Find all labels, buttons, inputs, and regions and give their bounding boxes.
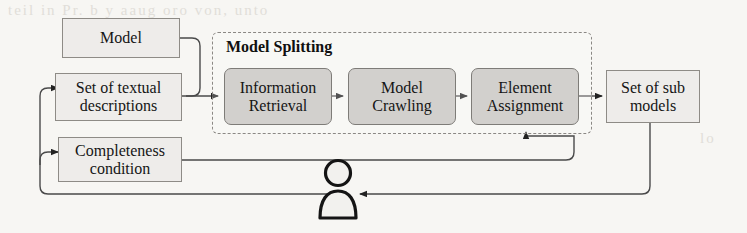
user-actor-icon[interactable]: [312, 158, 364, 220]
node-information-retrieval-label-line2: Retrieval: [249, 97, 308, 115]
node-completeness-label-line1: Completeness: [75, 142, 165, 160]
node-element-assignment-label-line2: Assignment: [487, 97, 563, 115]
wire-model-to-information-retrieval: [180, 38, 200, 96]
node-completeness-condition[interactable]: Completeness condition: [58, 137, 182, 182]
node-model-label: Model: [100, 29, 142, 47]
node-model[interactable]: Model: [62, 18, 180, 58]
node-element-assignment-label-line1: Element: [498, 79, 551, 97]
node-model-crawling[interactable]: Model Crawling: [348, 68, 456, 125]
node-model-crawling-label-line2: Crawling: [372, 97, 432, 115]
wire-completeness-condition-to-element-assignment: [182, 132, 574, 160]
node-information-retrieval-label-line1: Information: [240, 79, 316, 97]
node-set-of-textual-descriptions[interactable]: Set of textual descriptions: [55, 73, 182, 121]
node-sub-models-label-line1: Set of sub: [621, 79, 685, 97]
figure-model-splitting-process: teil in Pr. b y aaug oro von, unto h lo: [0, 0, 747, 233]
node-completeness-label-line2: condition: [90, 160, 150, 178]
node-element-assignment[interactable]: Element Assignment: [471, 68, 579, 125]
node-model-crawling-label-line1: Model: [381, 79, 423, 97]
node-sub-models-label-line2: models: [630, 97, 676, 115]
node-descriptions-label-line1: Set of textual: [76, 79, 161, 97]
person-icon: [312, 158, 364, 220]
model-splitting-title: Model Splitting: [226, 38, 332, 56]
node-set-of-sub-models[interactable]: Set of sub models: [606, 70, 700, 123]
node-information-retrieval[interactable]: Information Retrieval: [224, 68, 332, 125]
node-descriptions-label-line2: descriptions: [80, 97, 157, 115]
